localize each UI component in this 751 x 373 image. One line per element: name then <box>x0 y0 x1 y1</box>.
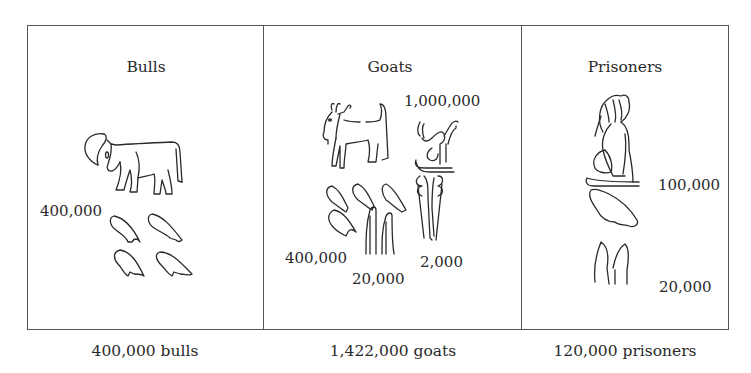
numeral-label: 1,000,000 <box>404 92 480 110</box>
panel-title-bulls: Bulls <box>66 58 226 76</box>
panel-title-goats: Goats <box>310 58 470 76</box>
ten-thousand-signs <box>362 202 402 257</box>
goat-icon <box>318 100 393 178</box>
numeral-label: 400,000 <box>40 202 102 220</box>
caption-bulls: 400,000 bulls <box>35 342 255 360</box>
numeral-label: 20,000 <box>659 278 712 296</box>
hundred-thousand-signs <box>108 212 203 282</box>
caption-prisoners: 120,000 prisoners <box>515 342 735 360</box>
kneeling-god-million-icon <box>410 118 465 253</box>
numeral-label: 20,000 <box>352 270 405 288</box>
panel-divider-2 <box>521 25 522 330</box>
panel-divider-1 <box>263 25 264 330</box>
numeral-label: 400,000 <box>285 249 347 267</box>
bull-icon <box>80 130 195 210</box>
numeral-label: 100,000 <box>658 176 720 194</box>
caption-goats: 1,422,000 goats <box>283 342 503 360</box>
panel-title-prisoners: Prisoners <box>545 58 705 76</box>
numeral-label: 2,000 <box>420 253 463 271</box>
bound-prisoner-icon <box>583 92 663 292</box>
